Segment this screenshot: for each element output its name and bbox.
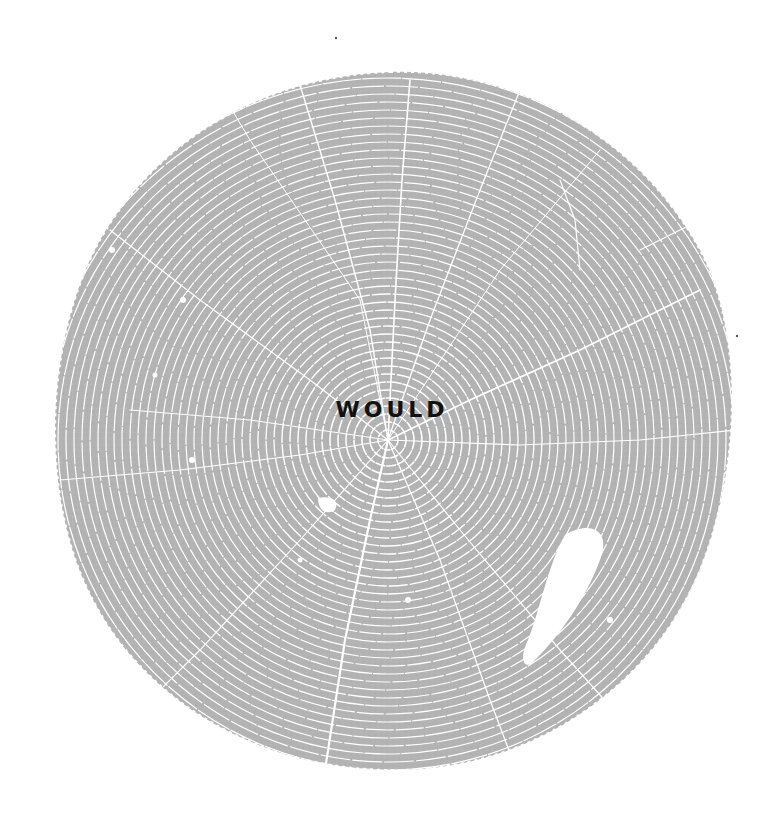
poster-canvas: WOULD [0, 0, 784, 836]
speck [736, 335, 738, 337]
poster-title: WOULD [0, 398, 784, 422]
speck [335, 37, 337, 39]
